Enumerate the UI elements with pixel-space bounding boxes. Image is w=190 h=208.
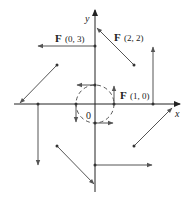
annotation-F03: F (0, 3) [55,32,85,44]
annotation-F22-bold: F [114,31,121,43]
annotation-F10-text: (1, 0) [130,91,150,101]
vector-at-1-neg1 [134,108,172,146]
annotation-F03-bold: F [55,32,62,44]
annotation-F22-text: (2, 2) [124,33,144,43]
annotation-F10: F (1, 0) [120,89,150,101]
origin-label: 0 [86,110,91,121]
vectors [20,28,172,184]
vector-at-neg1-1 [20,65,57,103]
annotation-F03-text: (0, 3) [65,34,85,44]
vector-field-diagram: x y 0 F [0,0,190,208]
annotation-F22: F (2, 2) [114,31,144,43]
annotation-F10-bold: F [120,89,127,101]
x-axis-label: x [174,108,180,119]
vector-at-neg1-neg1 [57,146,94,184]
y-axis-label: y [84,13,90,24]
